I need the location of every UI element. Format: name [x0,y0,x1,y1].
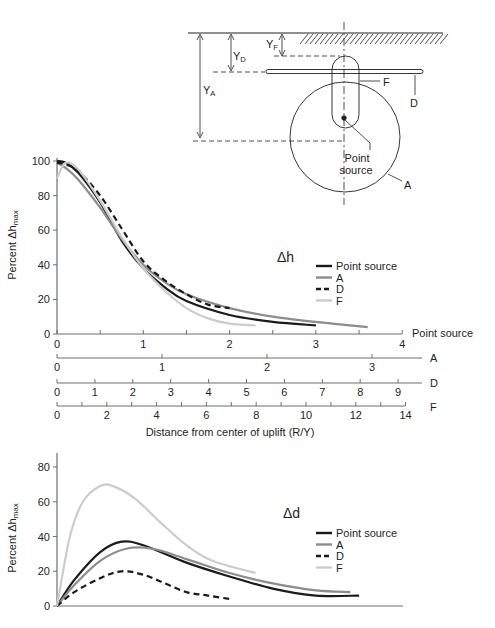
x-tick-label: 9 [395,386,401,398]
x-tick-label: 2 [104,409,110,421]
label-yd: YD [233,50,246,64]
legend-label: F [336,562,343,574]
x-tick-label: 2 [130,386,136,398]
x-tick-label: 0 [54,409,60,421]
x-axis-label: Distance from center of uplift (R/Y) [146,426,315,438]
schematic-labels: YF YD YA F D Point source A [203,38,418,191]
y-tick-label: 60 [38,496,50,508]
series-line-f [57,484,256,606]
x-tick-label: 5 [243,386,249,398]
series-line-f [57,162,256,325]
x-axis-name: Point source [412,327,473,339]
x-tick-label: 3 [369,361,375,373]
x-tick-label: 14 [399,409,411,421]
series-line-a [57,163,368,327]
label-yf: YF [266,38,278,52]
x-axis-name: A [430,352,438,364]
x-axis-name: D [430,377,438,389]
x-tick-label: 4 [206,386,212,398]
x-tick-label: 3 [168,386,174,398]
legend-label: D [336,550,344,562]
y-tick-label: 0 [44,328,50,340]
label-a: A [404,179,412,191]
y-tick-label: 80 [38,461,50,473]
y-tick-label: 60 [38,224,50,236]
y-axis-label: Percent Δhmax [6,210,20,280]
label-point-source-1: Point [344,152,369,164]
y-tick-label: 40 [38,259,50,271]
x-tick-label: 10 [300,409,312,421]
label-d: D [410,97,418,109]
sill-d [266,70,423,74]
y-axis-label: Percent Δhmax [6,503,20,573]
schematic-diagram [188,22,448,205]
chart-title: Δd [283,505,300,521]
x-tick-label: 1 [92,386,98,398]
chart-title: Δh [277,249,294,265]
x-tick-label: 0 [54,338,60,350]
x-tick-label: 0 [54,386,60,398]
label-f: F [383,76,390,88]
label-ya: YA [203,84,215,98]
y-tick-label: 0 [44,600,50,612]
x-axis-name: F [430,401,437,413]
legend-label: A [336,539,344,551]
x-tick-label: 4 [154,409,160,421]
x-tick-label: 6 [203,409,209,421]
point-source-dot [342,116,346,120]
series-line-point-source [57,161,316,325]
x-tick-label: 2 [264,361,270,373]
legend-label: D [336,283,344,295]
y-tick-label: 40 [38,531,50,543]
x-tick-label: 0 [54,361,60,373]
y-tick-label: 100 [32,155,50,167]
y-tick-label: 20 [38,565,50,577]
x-tick-label: 12 [350,409,362,421]
legend-label: A [336,272,344,284]
figure: YF YD YA F D Point source A 020406080100… [0,0,495,628]
x-tick-label: 3 [313,338,319,350]
x-tick-label: 6 [281,386,287,398]
delta-h-chart: 020406080100Percent ΔhmaxΔhPoint sourceA… [6,155,473,438]
x-tick-label: 1 [159,361,165,373]
label-point-source-2: source [339,164,372,176]
legend-label: F [336,295,343,307]
x-tick-label: 4 [399,338,405,350]
y-tick-label: 80 [38,190,50,202]
x-tick-label: 2 [227,338,233,350]
y-tick-label: 20 [38,293,50,305]
ground-hatching [300,34,448,44]
x-tick-label: 1 [140,338,146,350]
delta-d-chart: 020406080Percent ΔhmaxΔdPoint sourceADF [6,453,403,612]
x-tick-label: 7 [319,386,325,398]
legend-label: Point source [336,527,397,539]
x-tick-label: 8 [357,386,363,398]
x-tick-label: 8 [253,409,259,421]
legend-label: Point source [336,260,397,272]
